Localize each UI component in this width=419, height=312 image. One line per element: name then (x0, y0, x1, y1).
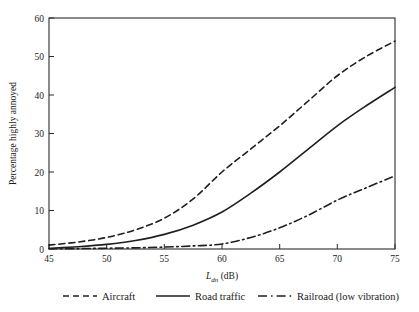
legend-label-railroad: Railroad (low vibration) (297, 291, 400, 303)
y-tick-labels: 0 10 20 30 40 50 60 (35, 14, 45, 255)
series-lines (49, 41, 395, 249)
plot-frame (49, 18, 395, 249)
chart-legend: Aircraft Road traffic Railroad (low vibr… (63, 291, 400, 303)
svg-text:Ldn (dB): Ldn (dB) (205, 271, 238, 284)
x-tick-label: 45 (44, 254, 54, 264)
y-axis-title: Percentage highly annoyed (8, 82, 18, 185)
y-tick-label: 50 (35, 52, 45, 62)
series-line-road-traffic (49, 87, 395, 248)
y-tick-label: 20 (35, 168, 45, 178)
x-tick-label: 75 (390, 254, 400, 264)
legend-label-aircraft: Aircraft (102, 291, 135, 302)
y-tick-label: 0 (39, 245, 44, 255)
x-tick-label: 65 (275, 254, 285, 264)
x-tick-label: 55 (160, 254, 170, 264)
series-line-aircraft (49, 41, 395, 245)
y-axis-ticks (49, 18, 54, 249)
y-tick-label: 40 (35, 91, 45, 101)
legend-label-road-traffic: Road traffic (195, 291, 246, 302)
x-tick-label: 60 (217, 254, 227, 264)
x-tick-label: 70 (333, 254, 343, 264)
x-axis-title: Ldn (dB) (205, 271, 238, 284)
y-tick-label: 10 (35, 206, 45, 216)
x-axis-title-unit: (dB) (221, 271, 238, 282)
y-tick-label: 60 (35, 14, 45, 24)
chart-figure: 0 10 20 30 40 50 60 45 50 55 60 65 70 75… (0, 0, 419, 312)
x-tick-labels: 45 50 55 60 65 70 75 (44, 254, 400, 264)
y-tick-label: 30 (35, 129, 45, 139)
x-tick-label: 50 (102, 254, 112, 264)
annoyance-vs-ldn-chart: 0 10 20 30 40 50 60 45 50 55 60 65 70 75… (0, 0, 419, 312)
